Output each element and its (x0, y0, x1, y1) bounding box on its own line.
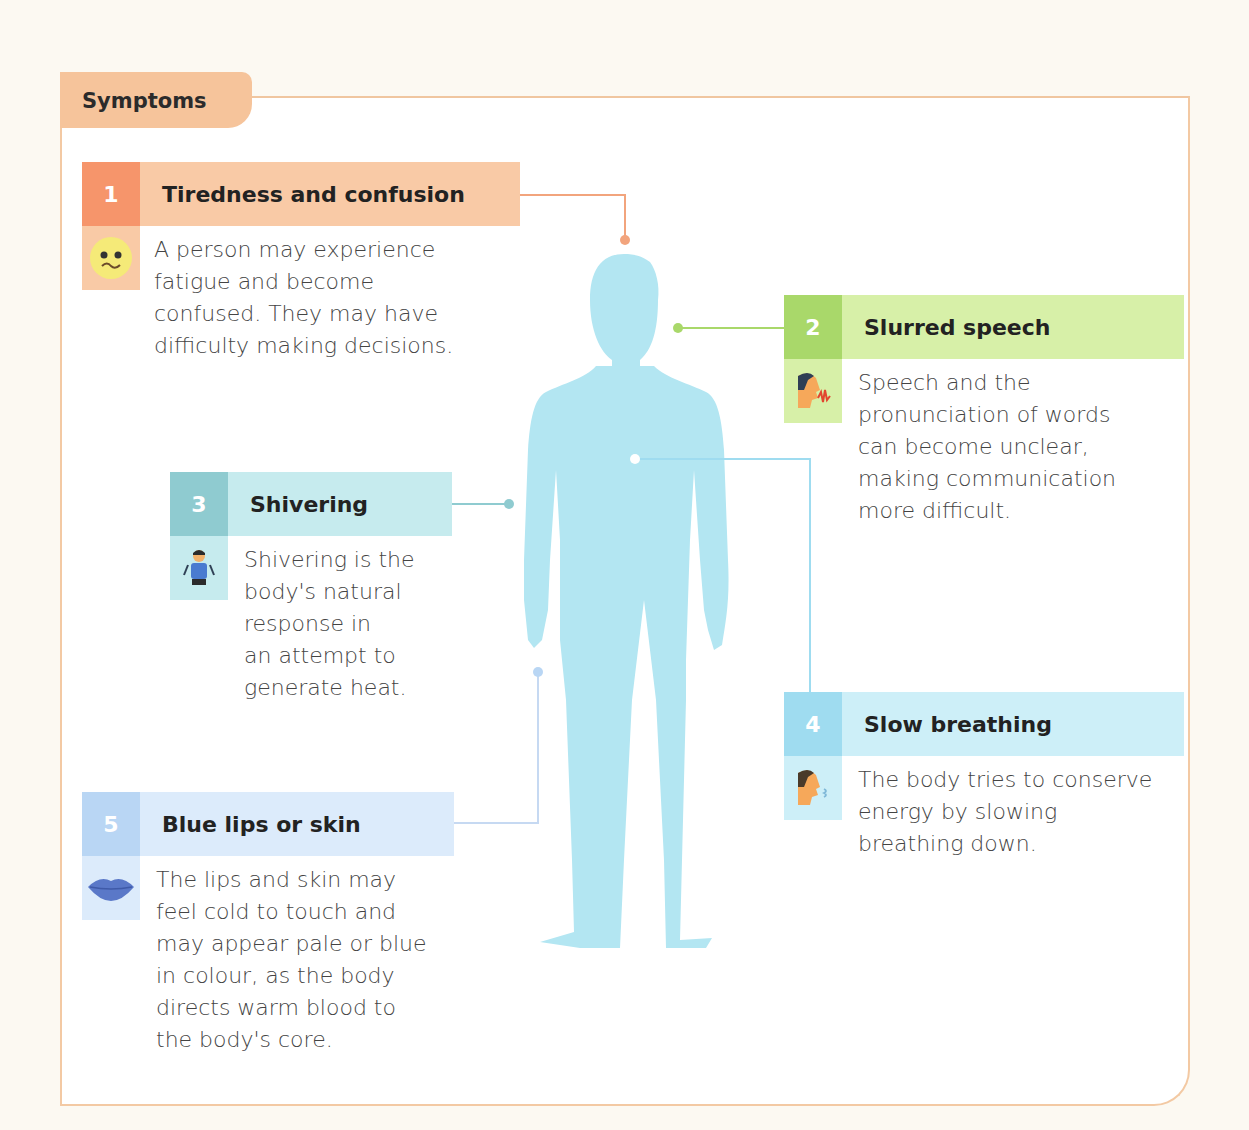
symptom-card-3: 3 Shivering Shivering is the body's natu… (170, 472, 432, 712)
symptom-title: Slurred speech (842, 295, 1184, 359)
symptom-card-1: 1 Tiredness and confusion A person may e… (82, 162, 502, 362)
symptom-description: A person may experience fatigue and beco… (154, 234, 453, 362)
symptom-title: Slow breathing (842, 692, 1184, 756)
symptom-number: 4 (784, 692, 842, 756)
shivering-person-icon (170, 536, 228, 600)
symptom-title: Shivering (228, 472, 452, 536)
symptom-number: 1 (82, 162, 140, 226)
symptom-description: Shivering is the body's natural response… (244, 544, 415, 704)
symptom-card-4: 4 Slow breathing The body tries to conse… (784, 692, 1164, 872)
breathing-head-icon (784, 756, 842, 820)
symptom-number: 3 (170, 472, 228, 536)
human-body-silhouette (524, 254, 729, 948)
symptom-description: Speech and the pronunciation of words ca… (858, 367, 1116, 527)
blue-lips-icon (82, 856, 140, 920)
symptom-description: The body tries to conserve energy by slo… (858, 764, 1152, 860)
symptom-number: 2 (784, 295, 842, 359)
symptom-title: Tiredness and confusion (140, 162, 520, 226)
confused-face-icon (82, 226, 140, 290)
symptom-card-2: 2 Slurred speech Speech and the pronunci… (784, 295, 1164, 535)
speaking-head-icon (784, 359, 842, 423)
symptom-title: Blue lips or skin (140, 792, 454, 856)
symptom-number: 5 (82, 792, 140, 856)
symptom-card-5: 5 Blue lips or skin The lips and skin ma… (82, 792, 434, 1062)
symptom-description: The lips and skin may feel cold to touch… (156, 864, 427, 1056)
